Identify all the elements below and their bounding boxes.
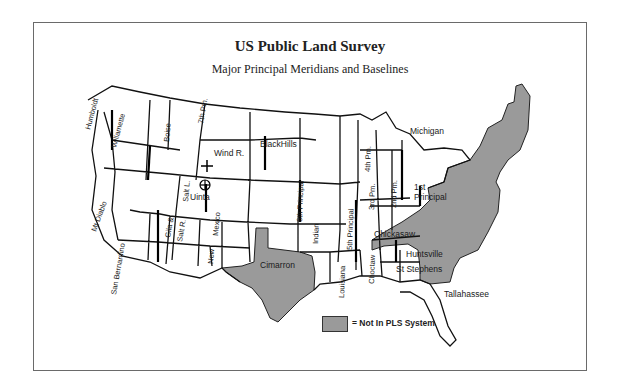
label-wind-river: Wind R. (214, 148, 244, 158)
label-san-bernardino: San Bernardino (109, 242, 127, 295)
label-1st-principal-a: 1st (414, 182, 426, 192)
label-7th-pm: 7th Pm. (196, 97, 209, 124)
label-cimarron: Cimarron (260, 260, 295, 270)
label-mexico: Mexico (211, 212, 222, 236)
label-salt-river: Salt R. (175, 219, 188, 243)
label-3rd-pm: 3rd Pm. (367, 184, 377, 211)
meridian-labels: Humboldt Willamette Boise 7th Pm. Wind R… (83, 96, 489, 299)
legend-label: = Not In PLS System (352, 318, 435, 328)
texas-region (222, 228, 315, 322)
label-boise: Boise (162, 123, 173, 142)
label-michigan: Michigan (410, 126, 444, 136)
wind-river-marker (201, 160, 213, 172)
label-6th-principal: 6th Principal (295, 180, 305, 222)
label-black-hills: BlackHills (260, 139, 297, 149)
label-choctaw: Choctaw (367, 254, 377, 284)
uinta-marker (200, 180, 210, 190)
label-5th-principal: 5th Principal (345, 208, 355, 250)
label-uinta: Uinta (190, 192, 210, 202)
label-chickasaw: Chickasaw (374, 229, 416, 239)
label-st-stephens: St Stephens (396, 264, 442, 274)
label-louisiana: Louisiana (337, 265, 347, 298)
us-map: Humboldt Willamette Boise 7th Pm. Wind R… (0, 0, 620, 388)
label-indian: Indian (311, 223, 321, 244)
label-huntsville: Huntsville (406, 249, 443, 259)
label-tallahassee: Tallahassee (444, 289, 489, 299)
label-new: New (206, 248, 216, 264)
label-1st-principal-b: Principal (414, 192, 447, 202)
legend-swatch (322, 316, 348, 332)
label-2nd-pm: 2nd Pm. (389, 180, 399, 208)
label-4th-pm: 4th Pm. (363, 146, 373, 172)
